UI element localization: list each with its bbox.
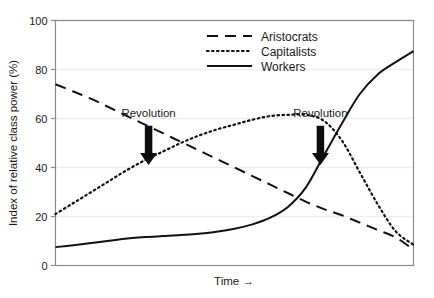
chart-background [0,0,434,298]
legend-label-capitalists: Capitalists [261,45,316,59]
chart-figure: 020406080100 RevolutionRevolution Aristo… [0,0,434,298]
legend-label-aristocrats: Aristocrats [261,30,318,44]
x-axis-title: Time → [214,275,254,287]
y-tick-label: 100 [29,15,47,27]
y-tick-label: 0 [41,260,47,272]
y-tick-label: 40 [35,162,47,174]
y-tick-label: 80 [35,64,47,76]
y-axis-title: Index of relative class power (%) [7,60,19,226]
legend-label-workers: Workers [261,60,305,74]
y-tick-label: 20 [35,211,47,223]
annotation-label: Revolution [293,107,347,119]
annotation-label: Revolution [121,107,175,119]
y-tick-label: 60 [35,113,47,125]
class-power-line-chart: 020406080100 RevolutionRevolution Aristo… [0,0,434,298]
